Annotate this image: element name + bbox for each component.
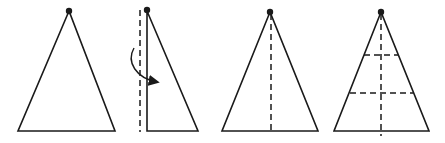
apex-pivot-dot	[66, 8, 72, 14]
step-4-crease-grid	[334, 9, 429, 136]
half-triangle-outline	[147, 11, 198, 131]
folding-diagram	[0, 0, 445, 143]
apex-pivot-dot	[267, 9, 273, 15]
fold-direction-arrow-icon	[131, 48, 157, 82]
diagram-canvas	[0, 0, 445, 143]
step-3-center-crease	[222, 9, 318, 132]
apex-pivot-dot	[144, 7, 150, 13]
triangle-outline	[222, 12, 318, 131]
triangle-outline	[18, 11, 115, 131]
step-2-half-fold	[131, 7, 198, 132]
step-1-triangle	[18, 8, 115, 131]
apex-pivot-dot	[378, 9, 384, 15]
